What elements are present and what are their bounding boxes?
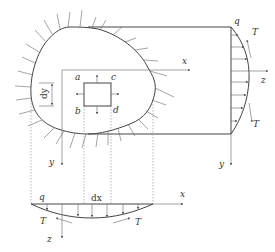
body-outline [31,27,231,134]
side-q-label: q [234,16,240,26]
side-t-bottom-label: T [253,119,260,129]
projection-lines [31,100,153,204]
bottom-view: q dx x T T z [31,189,185,244]
differential-element: a c b d [75,72,119,116]
boundary-hatching [15,10,174,148]
bottom-z-label: z [46,234,52,244]
side-view: q T T z y [218,16,268,169]
main-x-label: x [182,56,187,66]
dy-label: dy [39,87,49,99]
corner-a-label: a [75,72,80,82]
main-axes: x y [48,56,190,167]
dy-dimension: dy [39,83,54,106]
bottom-t-right-label: T [135,217,142,227]
main-y-label: y [48,157,55,167]
bottom-x-label: x [180,189,185,199]
diagram-svg: x y a c b d dy [0,0,275,252]
corner-b-label: b [75,106,81,116]
dx-label: dx [91,193,102,203]
corner-c-label: c [111,72,116,82]
diagram-canvas: x y a c b d dy [0,0,275,252]
side-z-label: z [260,75,266,85]
corner-d-label: d [113,105,119,115]
bottom-q-label: q [39,192,45,202]
side-y-label: y [218,159,225,169]
bottom-t-left-label: T [40,216,47,226]
side-t-top-label: T [252,27,259,37]
